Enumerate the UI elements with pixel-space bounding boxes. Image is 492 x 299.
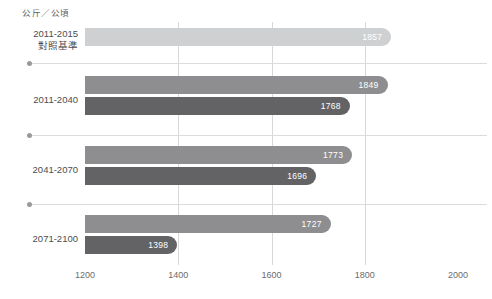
bar-chart: 公斤／公頃 2011-2015 對照基準 1857 2011-2040 1849… — [0, 0, 492, 299]
category-label-1: 2011-2040 — [0, 94, 78, 106]
bar-value-1-1: 1768 — [321, 101, 341, 111]
xtick-1800: 1800 — [355, 270, 375, 280]
category-label-0-line1: 2011-2015 — [33, 28, 78, 39]
category-label-2-line1: 2041-2070 — [33, 164, 78, 175]
bar-1-0: 1849 — [85, 76, 388, 94]
separator-dot-3 — [27, 202, 32, 207]
bar-3-1: 1398 — [85, 236, 177, 254]
bar-value-2-1: 1696 — [287, 171, 307, 181]
group-separator-3 — [30, 204, 487, 205]
xtick-1200: 1200 — [75, 270, 95, 280]
bar-value-0-0: 1857 — [362, 32, 382, 42]
separator-dot-2 — [27, 133, 32, 138]
bar-3-0: 1727 — [85, 215, 331, 233]
bar-2-1: 1696 — [85, 167, 316, 185]
bar-value-2-0: 1773 — [323, 150, 343, 160]
bar-2-0: 1773 — [85, 146, 352, 164]
xtick-1400: 1400 — [168, 270, 188, 280]
category-label-0: 2011-2015 對照基準 — [0, 28, 78, 52]
unit-title: 公斤／公頃 — [22, 6, 70, 18]
bar-value-1-0: 1849 — [358, 80, 378, 90]
category-label-3-line1: 2071-2100 — [33, 233, 78, 244]
xtick-1600: 1600 — [261, 270, 281, 280]
gridline-1800 — [365, 22, 366, 265]
category-label-3: 2071-2100 — [0, 233, 78, 245]
category-label-2: 2041-2070 — [0, 164, 78, 176]
category-label-0-line2: 對照基準 — [0, 40, 78, 52]
bar-value-3-0: 1727 — [302, 219, 322, 229]
group-separator-1 — [30, 63, 487, 64]
separator-dot-1 — [27, 61, 32, 66]
category-label-1-line1: 2011-2040 — [33, 94, 78, 105]
bar-0-0: 1857 — [85, 28, 391, 46]
group-separator-2 — [30, 135, 487, 136]
xtick-2000: 2000 — [448, 270, 468, 280]
bar-value-3-1: 1398 — [148, 240, 168, 250]
bar-1-1: 1768 — [85, 97, 350, 115]
